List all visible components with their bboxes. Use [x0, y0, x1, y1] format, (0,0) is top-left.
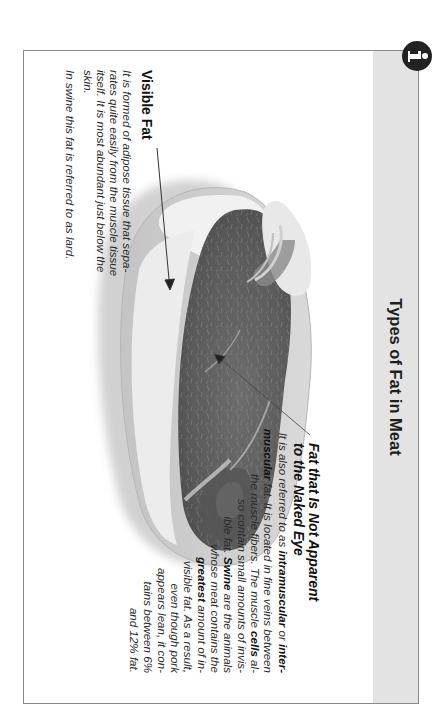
emphasized-term: intramuscular: [277, 551, 290, 628]
emphasized-term: inter-: [277, 644, 290, 673]
text-run: amount of in-: [196, 602, 209, 673]
info-icon-base: [408, 51, 411, 62]
document-page: Types of Fat in Meat: [0, 0, 445, 726]
text-run: tains between 6%: [142, 581, 155, 673]
text-run: or: [277, 627, 290, 644]
invisible-fat-line: appears lean, it con-: [156, 568, 169, 673]
visible-fat-line: skin.: [82, 70, 95, 94]
visible-fat-line: rates quite easily from the muscle tissu…: [108, 70, 121, 276]
text-run: so contain small amounts of invis-: [236, 499, 249, 673]
invisible-fat-line: muscular fat. It is located in fine vein…: [262, 429, 275, 673]
invisible-fat-heading-line-1: Fat that Is Not Apparent: [306, 443, 321, 601]
text-run: al-: [249, 657, 262, 673]
emphasized-term: greatest: [196, 557, 209, 602]
emphasized-term: muscular: [262, 429, 275, 481]
text-run: and 12% fat.: [128, 608, 141, 673]
invisible-fat-line: tains between 6%: [142, 581, 155, 673]
text-run: are the animals: [222, 591, 235, 674]
visible-fat-heading: Visible Fat: [139, 70, 154, 140]
emphasized-term: cells: [249, 631, 262, 657]
invisible-fat-line: even though pork: [169, 583, 182, 673]
invisible-fat-line: ible fat. Swine are the animals: [222, 516, 235, 673]
text-run: the muscle fibers. The muscle: [249, 474, 262, 631]
invisible-fat-heading-line-2: to the Naked Eye: [291, 443, 306, 556]
invisible-fat-line: It is also referred to as intramuscular …: [277, 433, 290, 673]
invisible-fat-line: the muscle fibers. The muscle cells al-: [249, 474, 262, 673]
text-run: fat. It is located in fine veins between: [262, 480, 275, 673]
text-run: even though pork: [169, 583, 182, 673]
emphasized-term: Swine: [222, 557, 235, 591]
invisible-fat-line: greatest amount of in-: [196, 557, 209, 673]
text-run: appears lean, it con-: [156, 568, 169, 673]
info-icon-stem: [409, 54, 421, 59]
invisible-fat-line: visible fat. As a result,: [182, 561, 195, 673]
invisible-fat-line: and 12% fat.: [128, 608, 141, 673]
invisible-fat-line: whose meat contains the: [209, 545, 222, 673]
page-title: Types of Fat in Meat: [373, 50, 419, 704]
info-icon: [402, 41, 432, 71]
visible-fat-note: In swine this fat is referred to as lard…: [64, 70, 77, 259]
text-run: whose meat contains the: [209, 545, 222, 673]
invisible-fat-line: so contain small amounts of invis-: [236, 499, 249, 673]
info-icon-dot: [422, 53, 428, 59]
text-run: ible fat.: [222, 516, 235, 557]
text-run: visible fat. As a result,: [182, 561, 195, 673]
visible-fat-line: itself. It is most abundant just below t…: [95, 70, 108, 272]
visible-fat-line: It is formed of adipose tissue that sepa…: [121, 70, 134, 272]
text-run: It is also referred to as: [277, 433, 290, 551]
page-title-text: Types of Fat in Meat: [387, 298, 406, 455]
